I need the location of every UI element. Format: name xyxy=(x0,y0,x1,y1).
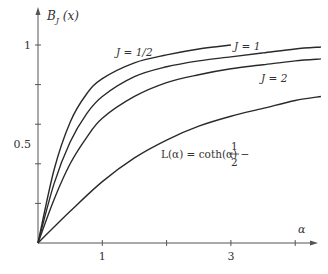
x-axis-arrow xyxy=(310,241,318,246)
x-tick-label: 3 xyxy=(227,250,234,263)
y-tick-label: 0.5 xyxy=(14,138,32,151)
y-axis-label: BJ (x) xyxy=(46,9,79,25)
label-j-2: J = 2 xyxy=(259,72,288,84)
label-j-half: J = 1/2 xyxy=(114,46,153,58)
x-tick-label: 1 xyxy=(99,250,106,263)
ticks xyxy=(35,45,295,246)
y-tick-label: 1 xyxy=(24,39,31,52)
series-line-3 xyxy=(38,96,321,243)
y-axis-arrow xyxy=(36,7,41,15)
brillouin-chart: 1310.5 BJ (x) α J = 1/2 J = 1 J = 2 L(α)… xyxy=(0,0,328,274)
x-axis-label: α xyxy=(298,223,306,236)
label-j-1: J = 1 xyxy=(232,40,260,52)
label-langevin-den: 2 xyxy=(231,156,238,168)
label-langevin-num: 1 xyxy=(231,140,238,152)
